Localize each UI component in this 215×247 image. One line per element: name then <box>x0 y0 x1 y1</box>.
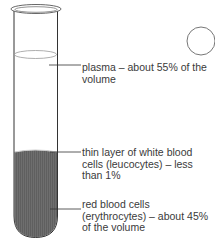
circle-marker-icon <box>187 27 215 55</box>
white-cells-label: thin layer of white blood cells (leucocy… <box>82 147 214 182</box>
plasma-surface <box>15 51 57 59</box>
plasma-label: plasma – about 55% of the volume <box>82 62 214 85</box>
red-blood-cells-layer <box>15 150 58 237</box>
red-cells-label: red blood cells (erythrocytes) – about 4… <box>82 199 214 234</box>
